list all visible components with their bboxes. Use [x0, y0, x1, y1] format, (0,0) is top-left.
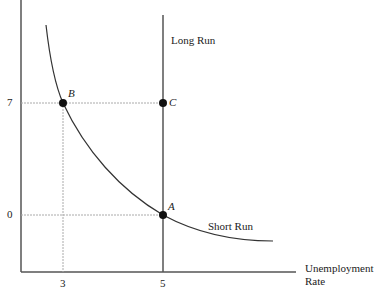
point-c	[159, 99, 167, 107]
y-tick-7: 7	[7, 96, 13, 108]
short-run-curve	[46, 25, 273, 241]
x-axis-label: Unemployment Rate	[305, 262, 373, 288]
point-b	[59, 99, 67, 107]
x-tick-3: 3	[60, 277, 66, 289]
point-a	[159, 211, 167, 219]
y-tick-0: 0	[7, 208, 13, 220]
point-a-label: A	[168, 200, 175, 212]
point-c-label: C	[169, 96, 176, 108]
short-run-label: Short Run	[208, 220, 253, 232]
long-run-label: Long Run	[171, 34, 215, 46]
point-b-label: B	[68, 87, 75, 99]
x-axis-label-line2: Rate	[305, 275, 373, 288]
x-axis-label-line1: Unemployment	[305, 262, 373, 275]
x-tick-5: 5	[160, 277, 166, 289]
